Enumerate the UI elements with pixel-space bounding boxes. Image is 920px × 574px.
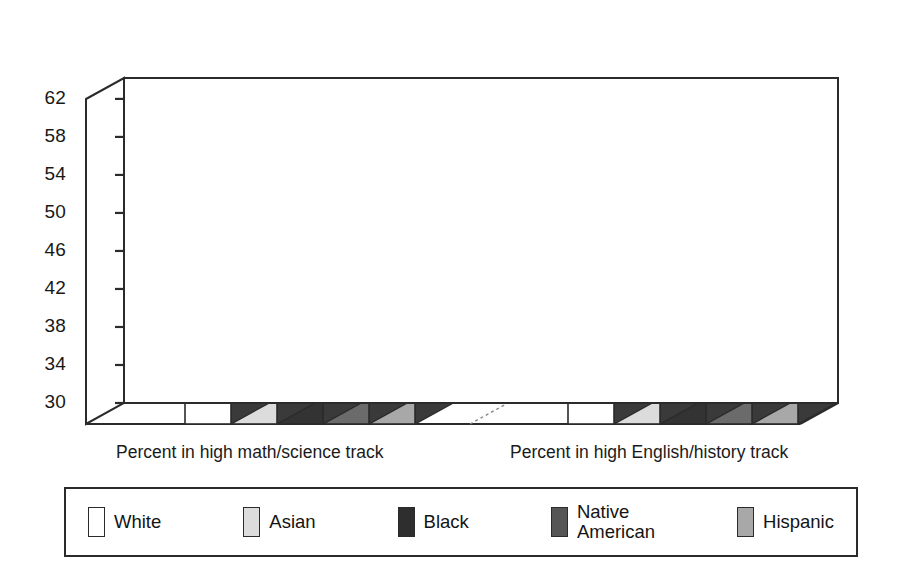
x-axis-label: Percent in high English/history track <box>510 442 788 463</box>
y-tick-label: 46 <box>22 239 66 261</box>
legend-label: Hispanic <box>763 512 834 532</box>
legend-item[interactable]: White <box>88 507 161 537</box>
y-tick-label: 50 <box>22 201 66 223</box>
chart-root: 625854504642383430 Percent in high math/… <box>0 0 920 574</box>
legend-item[interactable]: Black <box>398 507 469 537</box>
legend-item[interactable]: Asian <box>243 507 315 537</box>
legend-label: White <box>114 512 161 532</box>
legend-swatch-icon <box>88 507 105 537</box>
legend-swatch-icon <box>551 507 568 537</box>
y-tick-label: 34 <box>22 353 66 375</box>
y-tick-label: 38 <box>22 315 66 337</box>
y-tick-label: 58 <box>22 125 66 147</box>
y-tick-label: 54 <box>22 163 66 185</box>
legend-swatch-icon <box>737 507 754 537</box>
legend-swatch-icon <box>243 507 260 537</box>
legend-label: Black <box>424 512 469 532</box>
legend-item[interactable]: Native American <box>551 502 655 542</box>
chart-svg <box>0 0 920 470</box>
legend: WhiteAsianBlackNative AmericanHispanic <box>64 487 858 557</box>
y-tick-label: 42 <box>22 277 66 299</box>
legend-label: Asian <box>269 512 315 532</box>
legend-item[interactable]: Hispanic <box>737 507 834 537</box>
y-tick-label: 62 <box>22 87 66 109</box>
x-axis-label: Percent in high math/science track <box>116 442 384 463</box>
legend-label: Native American <box>577 502 655 542</box>
axis-layer <box>86 78 838 424</box>
y-tick-label: 30 <box>22 391 66 413</box>
legend-swatch-icon <box>398 507 415 537</box>
plot-area <box>0 0 920 470</box>
